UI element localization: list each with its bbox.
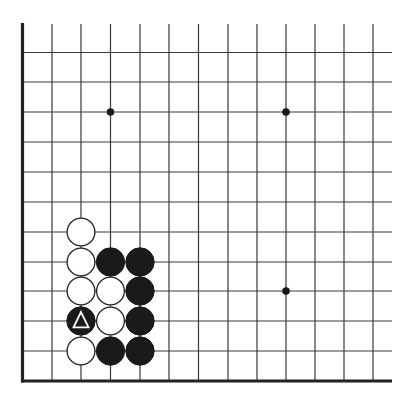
black-stone: [96, 248, 124, 276]
star-point-icon: [282, 108, 290, 116]
white-stone-icon: [97, 277, 125, 305]
white-stone: [67, 248, 95, 276]
black-stone-icon: [126, 277, 154, 305]
black-stone-icon: [126, 337, 154, 365]
black-stone: [126, 337, 154, 365]
star-point-icon: [107, 108, 115, 116]
black-stone-icon: [126, 307, 154, 335]
white-stone: [67, 337, 95, 365]
black-stone: [96, 337, 124, 365]
black-stone: [67, 307, 95, 335]
black-stone: [126, 307, 154, 335]
white-stone: [67, 277, 95, 305]
black-stone-icon: [96, 337, 124, 365]
white-stone-icon: [67, 337, 95, 365]
white-stone: [67, 218, 95, 246]
white-stone: [97, 307, 125, 335]
black-stone-icon: [126, 248, 154, 276]
white-stone-icon: [97, 307, 125, 335]
white-stone: [97, 277, 125, 305]
black-stone: [126, 248, 154, 276]
black-stone-icon: [96, 248, 124, 276]
white-stone-icon: [67, 218, 95, 246]
go-board: [0, 0, 415, 409]
white-stone-icon: [67, 248, 95, 276]
white-stone-icon: [67, 277, 95, 305]
star-point-icon: [282, 287, 290, 295]
black-stone: [126, 277, 154, 305]
